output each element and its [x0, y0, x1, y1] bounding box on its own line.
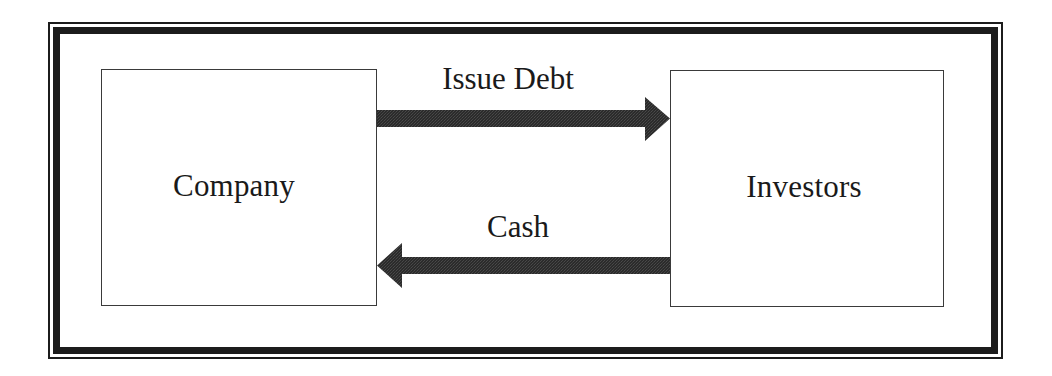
issue-debt-label: Issue Debt	[442, 61, 574, 97]
investors-node: Investors	[670, 70, 944, 307]
investors-label: Investors	[746, 169, 861, 205]
company-label: Company	[173, 168, 295, 204]
cash-label: Cash	[487, 209, 549, 245]
company-node: Company	[101, 69, 377, 306]
